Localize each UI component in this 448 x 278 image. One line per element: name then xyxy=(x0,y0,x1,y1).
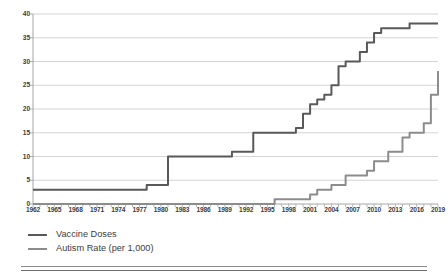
x-axis-tick-label: 1977 xyxy=(133,207,147,214)
x-axis-tick-label: 2016 xyxy=(410,207,424,214)
x-axis-tick-label: 1962 xyxy=(26,207,40,214)
x-axis-tick-label: 1998 xyxy=(282,207,296,214)
y-axis-tick-label: 25 xyxy=(8,82,30,89)
legend-item-autism-rate: Autism Rate (per 1,000) xyxy=(28,242,154,256)
x-axis-tick-label: 2013 xyxy=(388,207,402,214)
y-axis-tick-label: 5 xyxy=(8,177,30,184)
y-axis-tick-label: 15 xyxy=(8,129,30,136)
y-axis-tick-label: 35 xyxy=(8,34,30,41)
y-axis-tick-label: 10 xyxy=(8,153,30,160)
x-axis-tick-label: 1965 xyxy=(47,207,61,214)
x-axis-tick-label: 2010 xyxy=(367,207,381,214)
legend-item-vaccine-doses: Vaccine Doses xyxy=(28,228,154,242)
x-axis-tick-label: 1974 xyxy=(111,207,125,214)
x-axis-tick-label: 1971 xyxy=(90,207,104,214)
data-series-group xyxy=(33,24,438,205)
x-axis-tick-label: 2019 xyxy=(431,207,445,214)
x-axis-tick-label: 1995 xyxy=(260,207,274,214)
x-axis-tick-label: 2001 xyxy=(303,207,317,214)
x-axis-tick-label: 1986 xyxy=(196,207,210,214)
footer-divider xyxy=(21,266,427,271)
x-axis-tick-label: 1989 xyxy=(218,207,232,214)
x-axis-tick-label: 2004 xyxy=(324,207,338,214)
x-axis: 1962196519681971197419771980198319861989… xyxy=(33,207,438,219)
series-line-vaccine-doses xyxy=(33,24,438,190)
chart-plot-area xyxy=(33,14,438,204)
y-axis-tick-label: 20 xyxy=(8,106,30,113)
chart-screenshot: 4035302520151050 19621965196819711974197… xyxy=(0,0,448,278)
chart-legend: Vaccine Doses Autism Rate (per 1,000) xyxy=(28,228,154,256)
y-axis: 4035302520151050 xyxy=(0,14,30,204)
x-axis-tick-label: 1983 xyxy=(175,207,189,214)
series-line-autism-rate xyxy=(33,71,438,204)
x-axis-tick-label: 2007 xyxy=(346,207,360,214)
legend-label-autism-rate: Autism Rate (per 1,000) xyxy=(56,244,154,253)
legend-label-vaccine-doses: Vaccine Doses xyxy=(56,230,117,239)
y-axis-tick-label: 30 xyxy=(8,58,30,65)
x-axis-tick-label: 1968 xyxy=(69,207,83,214)
line-chart-svg xyxy=(33,14,438,204)
legend-swatch-vaccine-doses xyxy=(28,234,47,236)
x-axis-tick-label: 1992 xyxy=(239,207,253,214)
y-axis-tick-label: 40 xyxy=(8,11,30,18)
legend-swatch-autism-rate xyxy=(28,248,47,250)
x-axis-tick-label: 1980 xyxy=(154,207,168,214)
gridlines xyxy=(33,14,438,204)
